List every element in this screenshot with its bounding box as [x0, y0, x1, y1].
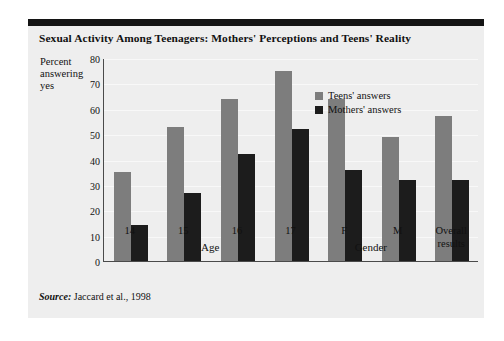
- source-note: Source: Jaccard et al., 1998: [39, 291, 151, 302]
- legend-item-mothers: Mothers' answers: [315, 104, 401, 115]
- plot-wrapper: Percent answering yes 01020304050607080 …: [28, 19, 484, 318]
- y-tick-label: 50: [72, 130, 100, 141]
- x-tick-label: 14: [125, 225, 136, 236]
- bar: [292, 129, 309, 261]
- x-tick-label: Overallresults: [435, 225, 467, 250]
- y-tick-label: 60: [72, 104, 100, 115]
- bar: [221, 99, 238, 261]
- legend-swatch-teens-icon: [315, 92, 323, 100]
- source-text: Jaccard et al., 1998: [71, 291, 150, 302]
- legend-label-teens: Teens' answers: [328, 90, 391, 101]
- group-label-age: Age: [201, 241, 219, 253]
- bar: [328, 99, 345, 261]
- legend-item-teens: Teens' answers: [315, 90, 401, 101]
- x-tick-label: 15: [178, 225, 189, 236]
- y-tick-label: 80: [72, 54, 100, 65]
- legend-label-mothers: Mothers' answers: [328, 104, 401, 115]
- y-axis-ticks: 01020304050607080: [68, 59, 100, 262]
- bar: [167, 127, 184, 261]
- source-word: Source:: [39, 291, 71, 302]
- legend-swatch-mothers-icon: [315, 106, 323, 114]
- group-label-gender: Gender: [355, 241, 387, 253]
- y-tick-label: 10: [72, 231, 100, 242]
- y-tick-label: 30: [72, 180, 100, 191]
- x-tick-label: M: [393, 225, 402, 236]
- x-tick-label: 17: [285, 225, 296, 236]
- legend: Teens' answers Mothers' answers: [315, 90, 401, 118]
- x-tick-label: F: [341, 225, 347, 236]
- y-tick-label: 20: [72, 206, 100, 217]
- bar: [114, 172, 131, 261]
- y-tick-label: 70: [72, 79, 100, 90]
- figure-panel: Sexual Activity Among Teenagers: Mothers…: [28, 19, 484, 318]
- bar: [399, 180, 416, 261]
- y-tick-label: 0: [72, 257, 100, 268]
- y-tick-label: 40: [72, 155, 100, 166]
- x-tick-label: 16: [232, 225, 243, 236]
- bar: [238, 154, 255, 261]
